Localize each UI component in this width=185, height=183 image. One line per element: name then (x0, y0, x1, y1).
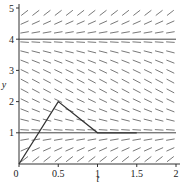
y-axis-label: y (1, 79, 7, 90)
slope-segment (65, 139, 73, 140)
slope-segment (144, 148, 152, 152)
slope-segment (54, 119, 62, 121)
slope-segment (121, 130, 130, 131)
slope-segment (111, 89, 119, 93)
slope-segment (54, 130, 63, 131)
slope-segment (155, 42, 164, 43)
slope-segment (32, 119, 40, 121)
slope-segment (66, 21, 74, 25)
slope-segment (122, 156, 129, 161)
slope-segment (77, 109, 85, 112)
slope-segment (66, 148, 74, 152)
slope-segment (54, 60, 62, 63)
slope-segment (20, 119, 28, 121)
slope-segment (76, 42, 85, 43)
y-tick-label: 2 (9, 96, 14, 107)
slope-segment (133, 32, 141, 33)
slope-segment (144, 89, 152, 93)
slope-segment (167, 70, 175, 74)
slope-segment (110, 139, 118, 140)
slope-segment (132, 130, 141, 131)
slope-segment (99, 42, 108, 43)
slope-segment (44, 156, 51, 161)
slope-segment (110, 51, 118, 53)
y-axis-ticks: 12345 (9, 3, 19, 139)
slope-segment (54, 32, 62, 33)
slope-segment (144, 21, 152, 25)
slope-segment (99, 89, 107, 93)
slope-segment (122, 21, 130, 25)
slope-segment (155, 109, 163, 112)
slope-segment (43, 130, 52, 131)
slope-segment (54, 51, 62, 53)
slope-segment (110, 109, 118, 112)
slope-segment (166, 109, 174, 112)
slope-segment (167, 89, 175, 93)
slope-segment (65, 119, 73, 121)
slope-segment (43, 42, 52, 43)
slope-segment (77, 148, 85, 152)
slope-segment (88, 21, 96, 25)
slope-segment (133, 89, 141, 93)
slope-segment (167, 79, 175, 83)
slope-segment (88, 32, 96, 33)
slope-segment (21, 79, 29, 83)
slope-segment (110, 99, 118, 103)
slope-segment (144, 32, 152, 33)
slope-segment (44, 10, 51, 15)
slope-segment (54, 21, 62, 25)
slope-segment (43, 60, 51, 63)
slope-segment (65, 32, 73, 33)
slope-segment (21, 10, 28, 15)
slope-segment (144, 70, 152, 74)
slope-segment (77, 156, 84, 161)
slope-segment (32, 21, 40, 25)
slope-segment (88, 99, 96, 103)
slope-segment (99, 70, 107, 74)
slope-segment (54, 139, 62, 140)
slope-segment (88, 119, 96, 121)
slope-segment (55, 156, 62, 161)
slope-segment (66, 79, 74, 83)
slope-segment (166, 130, 175, 131)
slope-segment (133, 10, 140, 15)
slope-segment (20, 32, 28, 33)
slope-segment (76, 139, 84, 140)
slope-segment (122, 109, 130, 112)
y-tick-label: 5 (9, 3, 14, 14)
slope-segment (54, 148, 62, 152)
slope-segment (121, 32, 129, 33)
slope-segment (20, 51, 28, 53)
slope-segment (76, 130, 85, 131)
slope-segment (32, 10, 39, 15)
slope-segment (122, 79, 130, 83)
slope-segment (32, 70, 40, 74)
slope-segment (77, 10, 84, 15)
slope-segment (99, 109, 107, 112)
x-tick-label: 0.5 (52, 168, 65, 179)
slope-segment (32, 79, 40, 83)
slope-segment (100, 10, 107, 15)
slope-segment (133, 156, 140, 161)
slope-segment (167, 156, 174, 161)
slope-segment (166, 148, 174, 152)
slope-segment (144, 42, 153, 43)
slope-segment (110, 148, 118, 152)
y-tick-label: 1 (9, 127, 14, 138)
slope-segment (20, 130, 29, 131)
y-tick-label: 3 (9, 65, 14, 76)
slope-segment (99, 60, 107, 63)
slope-segment (77, 60, 85, 63)
slope-segment (167, 99, 175, 103)
slope-segment (21, 70, 29, 74)
slope-segment (110, 32, 118, 33)
equilibrium-lines (19, 39, 176, 133)
slope-segment (88, 89, 96, 93)
slope-segment (100, 156, 107, 161)
slope-segment (66, 70, 74, 74)
slope-segment (65, 60, 73, 63)
slope-segment (43, 148, 51, 152)
slope-segment (21, 99, 29, 103)
slope-segment (122, 70, 130, 74)
slope-segment (99, 79, 107, 83)
